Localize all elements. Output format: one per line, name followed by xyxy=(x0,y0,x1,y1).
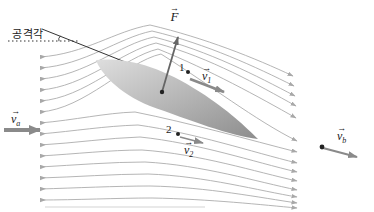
va-label: → va xyxy=(11,109,20,129)
v1-label: → v1 xyxy=(202,66,211,86)
point2-dot xyxy=(176,132,180,136)
v1-subscript: 1 xyxy=(207,76,211,85)
streamline xyxy=(40,25,293,76)
streamline xyxy=(40,174,297,197)
v2-label: → v2 xyxy=(184,140,193,160)
force-symbol: F xyxy=(171,9,179,24)
v2-subscript: 2 xyxy=(189,150,193,159)
vb-vector xyxy=(323,148,357,157)
airfoil xyxy=(96,59,258,139)
diagram-canvas xyxy=(0,0,374,212)
force-label: → F xyxy=(170,6,179,23)
force-origin-dot xyxy=(160,90,164,94)
angle-arc xyxy=(59,36,61,41)
point1-dot xyxy=(186,70,190,74)
streamline xyxy=(40,186,297,203)
va-subscript: a xyxy=(16,119,20,128)
angle-of-attack-label: 공격각 xyxy=(12,25,44,41)
point2-label: 2 xyxy=(166,123,172,135)
vb-subscript: b xyxy=(342,136,346,145)
vb-origin-dot xyxy=(320,145,325,150)
vb-label: → vb xyxy=(337,126,346,146)
airfoil-flow-diagram: 공격각 → F 1 → v1 2 → v2 → va → vb xyxy=(0,0,374,212)
point1-label: 1 xyxy=(179,61,185,73)
